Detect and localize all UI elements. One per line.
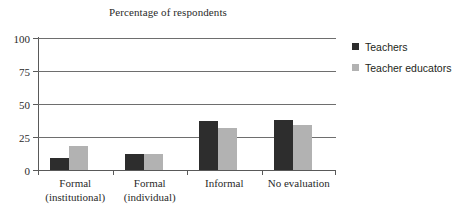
bar-teachers-4 <box>274 120 293 170</box>
x-tick-2 <box>187 171 188 175</box>
y-axis-label-75: 75 <box>19 66 30 78</box>
bar-teachers-1 <box>50 158 69 170</box>
x-axis-label-line2: (individual) <box>113 190 188 204</box>
bar-educators-3 <box>218 128 237 170</box>
bar-educators-2 <box>144 154 163 170</box>
plot-area: 0255075100 <box>38 38 336 171</box>
y-axis-label-100: 100 <box>14 33 31 45</box>
x-axis-label-3: Informal <box>187 176 262 190</box>
y-axis-label-50: 50 <box>19 99 30 111</box>
x-axis-label-4: No evaluation <box>262 176 337 190</box>
chart-title: Percentage of respondents <box>0 6 336 18</box>
x-axis-label-2: Formal(individual) <box>113 176 188 204</box>
x-tick-0 <box>38 171 39 175</box>
x-axis-labels: Formal(institutional)Formal(individual)I… <box>38 176 336 216</box>
legend-item-teacher-educators: Teacher educators <box>352 59 472 76</box>
x-tick-4 <box>335 171 336 175</box>
x-axis-label-line1: Formal <box>134 177 166 189</box>
y-axis-label-0: 0 <box>25 165 31 177</box>
x-axis-label-1: Formal(institutional) <box>38 176 113 204</box>
legend-label-teacher-educators: Teacher educators <box>365 62 451 74</box>
bar-educators-1 <box>69 146 88 170</box>
x-axis-label-line2: (institutional) <box>38 190 113 204</box>
y-axis-label-25: 25 <box>19 132 30 144</box>
x-axis-label-line1: Informal <box>205 177 243 189</box>
bars-layer <box>38 38 336 171</box>
bar-teachers-2 <box>125 154 144 170</box>
x-axis-label-line1: No evaluation <box>268 177 330 189</box>
x-tick-1 <box>113 171 114 175</box>
bar-teachers-3 <box>199 121 218 170</box>
bar-chart: Percentage of respondents 0255075100 For… <box>0 0 475 217</box>
x-tick-3 <box>262 171 263 175</box>
legend-swatch-teacher-educators <box>352 64 359 71</box>
legend-label-teachers: Teachers <box>365 41 408 53</box>
bar-educators-4 <box>293 125 312 170</box>
legend: Teachers Teacher educators <box>352 38 472 80</box>
legend-item-teachers: Teachers <box>352 38 472 55</box>
legend-swatch-teachers <box>352 43 359 50</box>
x-axis-label-line1: Formal <box>59 177 91 189</box>
